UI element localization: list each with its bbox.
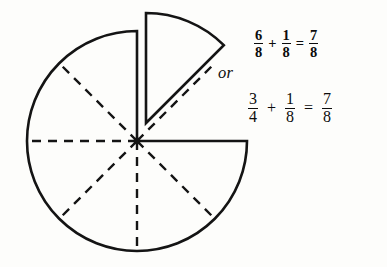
plus-operator: + — [258, 99, 285, 117]
eighths-circle-diagram — [0, 0, 250, 267]
detached-eighth-sector — [146, 13, 224, 123]
radius-315deg — [137, 141, 215, 219]
equals-operator: = — [291, 35, 309, 52]
radius-45deg — [137, 63, 215, 141]
equation-eighths: 6 8 + 1 8 = 7 8 — [254, 28, 318, 60]
numerator: 1 — [282, 28, 291, 43]
numerator: 3 — [248, 91, 258, 107]
fraction-three-quarters: 3 4 — [248, 91, 258, 126]
radius-225deg — [59, 141, 137, 219]
circle-center-point — [134, 138, 141, 145]
denominator: 8 — [322, 109, 332, 125]
numerator: 1 — [285, 91, 295, 107]
radius-135deg — [59, 63, 137, 141]
numerator: 7 — [309, 28, 318, 43]
denominator: 8 — [254, 45, 263, 60]
numerator: 6 — [254, 28, 263, 43]
dashed-division-radii — [27, 63, 215, 251]
denominator: 8 — [309, 45, 318, 60]
denominator: 4 — [248, 109, 258, 125]
fraction-one-eighth: 1 8 — [282, 28, 291, 60]
detached-eighth-group — [146, 13, 224, 123]
equals-operator: = — [295, 99, 322, 117]
equation-panel: 6 8 + 1 8 = 7 8 or 3 4 + — [218, 18, 387, 143]
equation-quarters: 3 4 + 1 8 = 7 8 — [248, 91, 332, 126]
denominator: 8 — [285, 109, 295, 125]
plus-operator: + — [263, 35, 281, 52]
fraction-seven-eighths: 7 8 — [309, 28, 318, 60]
fraction-figure: 6 8 + 1 8 = 7 8 or 3 4 + — [0, 0, 387, 267]
denominator: 8 — [282, 45, 291, 60]
fraction-one-eighth: 1 8 — [285, 91, 295, 126]
or-connector-label: or — [218, 63, 233, 83]
numerator: 7 — [322, 91, 332, 107]
fraction-six-eighths: 6 8 — [254, 28, 263, 60]
fraction-seven-eighths: 7 8 — [322, 91, 332, 126]
